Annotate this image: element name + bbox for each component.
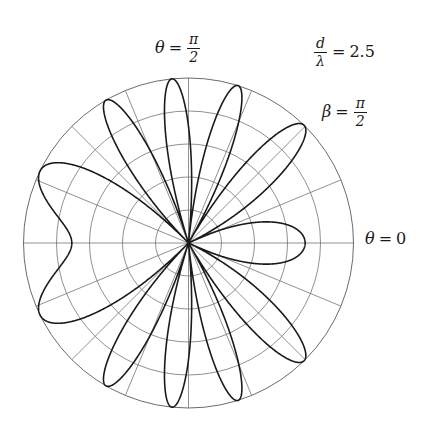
- pi-over-2-fraction: π 2: [353, 96, 368, 129]
- fraction-denominator: λ: [314, 52, 327, 69]
- theta-zero-value: 0: [396, 231, 406, 247]
- beta-symbol: β: [322, 104, 331, 120]
- fraction-numerator: d: [314, 36, 327, 52]
- label-beta: β = π 2: [322, 96, 368, 129]
- fraction-numerator: π: [187, 32, 200, 48]
- fraction-denominator: 2: [187, 48, 200, 65]
- polar-pattern-figure: θ = π 2 d λ = 2.5 β = π 2: [0, 0, 435, 448]
- label-theta-zero: θ = 0: [365, 231, 406, 247]
- polar-grid-spoke: [125, 91, 188, 243]
- polar-grid-spoke: [36, 180, 188, 243]
- label-d-over-lambda: d λ = 2.5: [313, 35, 375, 69]
- fraction-numerator: π: [354, 96, 367, 112]
- theta-symbol: θ: [365, 231, 375, 247]
- equals-sign: =: [332, 44, 345, 60]
- d-over-lambda-fraction: d λ: [313, 36, 328, 69]
- polar-grid-spoke: [36, 243, 188, 306]
- polar-grid-spoke: [125, 243, 188, 395]
- equals-sign: =: [335, 104, 348, 120]
- pi-over-2-fraction: π 2: [186, 32, 201, 65]
- equals-sign: =: [169, 40, 182, 56]
- label-theta-pi-over-2: θ = π 2: [155, 32, 201, 65]
- equals-sign: =: [379, 231, 392, 247]
- theta-symbol: θ: [155, 40, 165, 56]
- fraction-denominator: 2: [354, 112, 367, 129]
- d-over-lambda-value: 2.5: [349, 44, 374, 60]
